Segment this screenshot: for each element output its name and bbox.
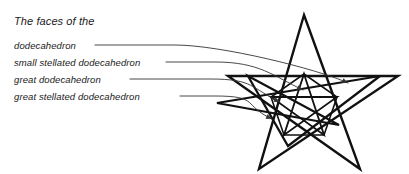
leader-lines [0,0,409,174]
leader-arrowhead-icon [266,114,272,119]
diagram-canvas: The faces of the dodecahedron small stel… [0,0,409,174]
leader-arrowhead-icon [342,78,348,83]
leader-line [95,45,348,83]
leader-line [166,62,303,90]
leader-line [130,79,280,102]
leader-line [180,96,272,119]
leader-arrowhead-icon [274,97,280,102]
leader-arrowhead-icon [297,85,303,90]
